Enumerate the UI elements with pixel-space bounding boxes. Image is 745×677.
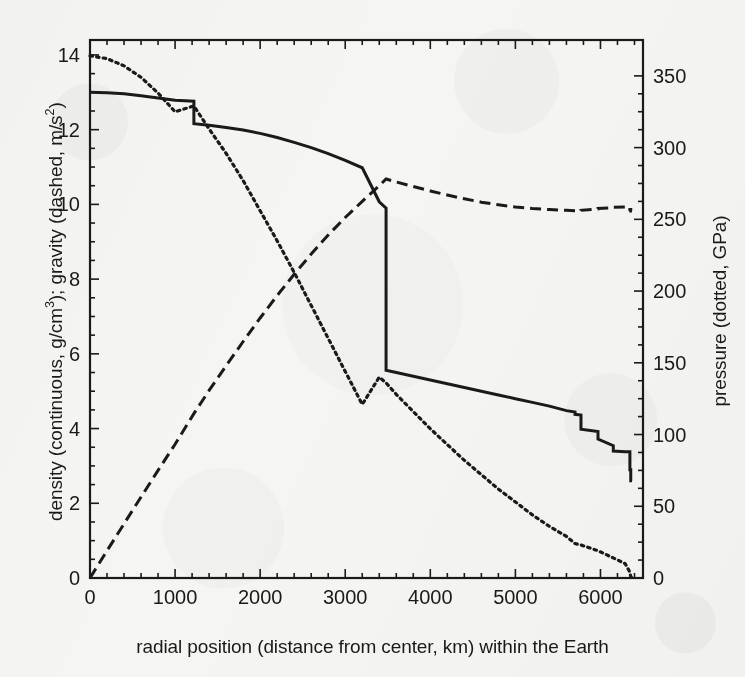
- curve-gravity: [90, 179, 632, 578]
- plot-area: [0, 0, 745, 677]
- curve-pressure: [90, 56, 632, 578]
- axes-frame: [90, 40, 643, 578]
- data-curves: [90, 56, 632, 578]
- axis-ticks: [90, 40, 643, 578]
- figure-container: density (continuous, g/cm3); gravity (da…: [0, 0, 745, 677]
- curve-density: [90, 92, 632, 481]
